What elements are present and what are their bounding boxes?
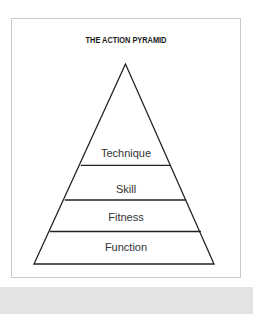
level-technique-label: Technique <box>66 147 186 159</box>
pyramid-outline <box>34 64 214 264</box>
level-function-label: Function <box>66 241 186 253</box>
footer-band <box>0 287 253 314</box>
level-skill-label: Skill <box>66 183 186 195</box>
level-fitness-label: Fitness <box>66 211 186 223</box>
